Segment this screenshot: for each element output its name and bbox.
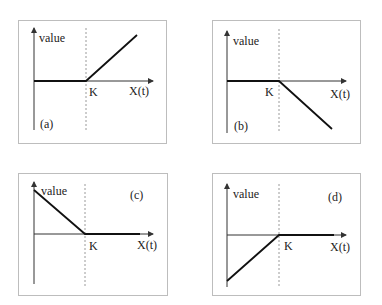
x-axis-label: X(t) [137,238,157,252]
payoff-line [227,235,334,281]
y-axis-label: value [233,187,259,201]
panel-tag: (c) [130,188,143,202]
y-axis-label: value [39,31,65,45]
panel-tag: (a) [40,117,53,131]
x-axis-label: X(t) [330,87,350,101]
panel-tag: (b) [234,119,248,133]
panel-d: value K X(t) (d) [213,174,361,296]
x-axis-label: X(t) [330,240,350,254]
panel-b: value K X(t) (b) [213,21,361,144]
panel-c: value K X(t) (c) [19,174,168,296]
x-axis-label: X(t) [129,84,149,98]
strike-label: K [284,239,293,253]
strike-label: K [89,239,98,253]
y-axis-label: value [41,184,67,198]
strike-label: K [89,85,98,99]
strike-label: K [265,85,274,99]
panel-tag: (d) [328,190,342,204]
payoff-diagrams: value K X(t) (a) value K X(t) (b) value … [0,0,382,305]
panel-a: value K X(t) (a) [19,21,167,144]
y-axis-label: value [233,34,259,48]
